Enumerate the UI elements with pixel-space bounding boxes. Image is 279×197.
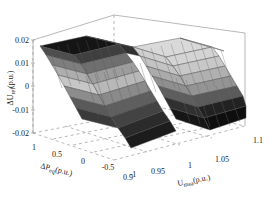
x-tick-4: 1.1 — [253, 136, 263, 145]
z-tick-3: -0.01 — [12, 106, 29, 115]
z-tick-4: -0.02 — [12, 129, 29, 138]
z-axis-label: ΔUref(p.u.) — [6, 70, 16, 105]
svg-text:ΔPeq(p.u.): ΔPeq(p.u.) — [39, 161, 73, 179]
figure-canvas: ··· ···· ·· ····· ··· ···· ·· — [0, 0, 279, 197]
y-axis-label: ΔPeq(p.u.) — [39, 161, 73, 179]
x-tick-2: 1 — [188, 161, 192, 170]
surface-plot-svg: 0.02 0.01 0 -0.01 -0.02 ΔUref(p.u.) 1 0.… — [0, 0, 279, 197]
z-axis-label-sub: ref — [10, 88, 16, 95]
x-tick-3: 1.05 — [215, 155, 229, 164]
z-tick-2: 0 — [25, 82, 29, 91]
z-axis-label-unit: (p.u.) — [6, 70, 15, 88]
y-tick-3: -0.5 — [102, 163, 115, 172]
y-tick-labels: 1 0.5 0 -0.5 -1 — [32, 143, 136, 179]
z-axis-label-main: ΔU — [6, 94, 15, 105]
y-axis-label-unit: (p.u.) — [54, 165, 73, 178]
x-axis-label: Umea(p.u.) — [177, 173, 212, 189]
z-tick-1: 0.01 — [15, 59, 29, 68]
x-axis-label-unit: (p.u.) — [192, 173, 211, 185]
x-tick-1: 0.95 — [151, 167, 165, 176]
x-tick-0: 0.9 — [123, 173, 133, 182]
y-tick-1: 0.5 — [52, 150, 62, 159]
y-tick-2: 0 — [81, 157, 85, 166]
y-tick-0: 1 — [32, 143, 36, 152]
svg-text:Umea(p.u.): Umea(p.u.) — [177, 173, 212, 189]
z-tick-0: 0.02 — [15, 36, 29, 45]
svg-text:ΔUref(p.u.): ΔUref(p.u.) — [6, 70, 16, 105]
surface-mesh — [40, 36, 246, 148]
